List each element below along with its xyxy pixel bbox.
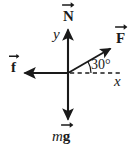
free-body-diagram: N y F f 30° x m xyxy=(0,0,135,153)
y-axis-label: y xyxy=(53,27,60,42)
normal-force-symbol: N xyxy=(63,8,74,24)
angle-label-30-degrees: 30° xyxy=(91,58,111,72)
label-applied-force-F: F xyxy=(116,31,125,46)
gravity-symbol: g xyxy=(63,128,71,144)
label-normal-force-N: N xyxy=(63,9,74,24)
mass-symbol: m xyxy=(52,128,63,144)
label-friction-force-f: f xyxy=(11,60,16,75)
friction-force-symbol: f xyxy=(11,59,16,75)
applied-force-symbol: F xyxy=(116,30,125,46)
x-axis-label: x xyxy=(114,74,121,89)
label-weight-mg: m g xyxy=(52,128,70,144)
